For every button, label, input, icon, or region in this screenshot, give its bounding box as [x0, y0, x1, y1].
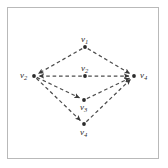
graph-edge — [38, 49, 82, 74]
graph-edge — [37, 77, 80, 97]
node-label-bottom: v4 — [80, 128, 87, 137]
graph-edge — [88, 49, 130, 74]
graph-node-center — [83, 74, 87, 78]
figure-canvas: v1v2v2v4v3v4 — [0, 0, 168, 168]
node-label-subscript: 3 — [84, 106, 87, 113]
node-label-mid: v3 — [80, 103, 87, 112]
graph-edge — [86, 79, 130, 121]
directed-graph — [0, 0, 168, 168]
graph-node-right — [132, 74, 136, 78]
graph-node-bottom — [82, 122, 86, 126]
node-label-subscript: 2 — [24, 74, 27, 81]
graph-node-top — [83, 45, 87, 49]
node-label-subscript: 4 — [84, 131, 87, 138]
node-label-left: v2 — [20, 71, 27, 80]
node-label-subscript: 4 — [144, 74, 147, 81]
node-label-center: v2 — [81, 64, 88, 73]
node-layer — [32, 45, 136, 126]
node-label-subscript: 2 — [85, 67, 88, 74]
graph-edge — [87, 78, 130, 98]
node-label-right: v4 — [140, 71, 147, 80]
graph-edge — [36, 78, 80, 120]
node-label-top: v1 — [81, 35, 88, 44]
graph-node-left — [32, 74, 36, 78]
node-label-subscript: 1 — [85, 38, 88, 45]
